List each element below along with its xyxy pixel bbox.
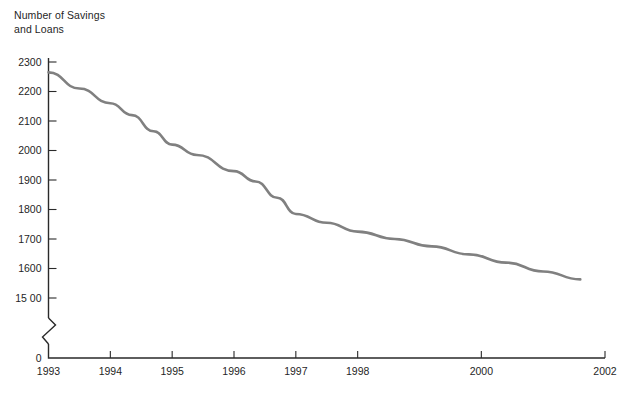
x-axis-ticks: 19931994199519961997199820002002 [37, 351, 617, 377]
y-tick-label: 1700 [18, 233, 42, 245]
x-axis-line [49, 344, 606, 358]
y-tick-label: 2100 [18, 115, 42, 127]
y-tick-label: 2300 [18, 56, 42, 68]
x-tick-label: 2002 [593, 365, 617, 377]
chart-container: Number of Savings and Loans 230022002100… [0, 0, 619, 393]
y-axis-ticks: 2300220021002000190018001700160015 000 [15, 56, 56, 364]
x-tick-label: 1993 [37, 365, 61, 377]
y-tick-label: 1600 [18, 262, 42, 274]
x-tick-label: 1998 [346, 365, 370, 377]
line-chart-plot: 2300220021002000190018001700160015 000 1… [0, 0, 619, 393]
y-tick-label: 2200 [18, 85, 42, 97]
y-tick-label: 1900 [18, 174, 42, 186]
x-tick-label: 1994 [99, 365, 123, 377]
data-series-line [49, 72, 581, 279]
y-tick-label: 15 00 [15, 292, 41, 304]
x-tick-label: 1997 [284, 365, 308, 377]
y-tick-label: 1800 [18, 203, 42, 215]
x-tick-label: 2000 [470, 365, 494, 377]
y-tick-label: 0 [36, 352, 42, 364]
y-axis-break-icon [43, 318, 56, 344]
y-tick-label: 2000 [18, 144, 42, 156]
x-tick-label: 1996 [222, 365, 246, 377]
x-tick-label: 1995 [160, 365, 184, 377]
